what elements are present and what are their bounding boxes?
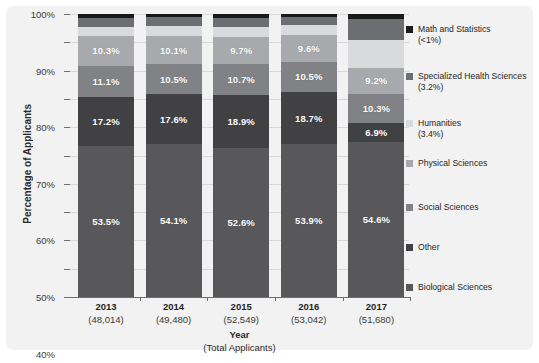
bar-segment-label: 11.1% <box>93 76 120 87</box>
bar-segment[interactable]: 10.7% <box>213 64 269 94</box>
bar-segment-label: 10.5% <box>295 71 322 82</box>
y-axis-tick-label: 50% <box>36 292 55 303</box>
bar-segment[interactable]: 53.5% <box>78 146 134 297</box>
bar-segment[interactable] <box>146 17 202 26</box>
x-tick-year: 2015 <box>205 300 277 313</box>
bar-segment[interactable]: 9.2% <box>348 68 404 94</box>
bar-segment[interactable]: 17.6% <box>146 94 202 144</box>
legend-item[interactable]: Physical Sciences <box>406 158 487 169</box>
bar-2015[interactable]: 9.7%10.7%18.9%52.6% <box>213 14 269 297</box>
bar-segment[interactable]: 18.9% <box>213 95 269 148</box>
bar-segment[interactable]: 54.6% <box>348 142 404 297</box>
x-tick-year: 2017 <box>340 300 412 313</box>
bar-segment[interactable]: 10.3% <box>348 94 404 123</box>
x-tick-total: (51,680) <box>340 313 412 326</box>
x-axis-title-main: Year <box>70 328 409 341</box>
legend-item[interactable]: Humanities(3.4%) <box>406 118 461 140</box>
bar-segment-label: 10.5% <box>160 74 187 85</box>
legend-swatch <box>406 120 413 127</box>
bar-segment[interactable]: 6.9% <box>348 123 404 143</box>
bar-segment-label: 6.9% <box>365 127 387 138</box>
x-tick-total: (48,014) <box>70 313 142 326</box>
legend-item[interactable]: Specialized Health Sciences(3.2%) <box>406 71 526 93</box>
bar-segment-label: 52.6% <box>227 217 254 228</box>
legend-label: Physical Sciences <box>418 158 487 169</box>
bar-segment[interactable] <box>348 19 404 40</box>
bar-segment[interactable] <box>78 27 134 37</box>
bar-segment[interactable] <box>348 40 404 68</box>
bar-segment[interactable] <box>213 18 269 28</box>
bar-segment-label: 10.7% <box>227 74 254 85</box>
y-axis-tick-label: 100% <box>31 9 55 20</box>
legend-swatch <box>406 73 413 80</box>
bar-segment[interactable]: 11.1% <box>78 66 134 97</box>
legend-label: Specialized Health Sciences(3.2%) <box>418 71 526 93</box>
plot-area: 0%10%20%30%40%50%60%70%80%90%100%10.3%11… <box>70 14 409 297</box>
bar-segment[interactable]: 17.2% <box>78 97 134 146</box>
legend-swatch <box>406 26 413 33</box>
x-tick-year: 2013 <box>70 300 142 313</box>
bar-segment[interactable]: 10.5% <box>281 62 337 92</box>
legend-sublabel: (3.2%) <box>418 82 526 93</box>
bar-segment[interactable]: 54.1% <box>146 144 202 297</box>
bar-2016[interactable]: 9.6%10.5%18.7%53.9% <box>281 14 337 297</box>
legend-sublabel: (<1%) <box>418 35 491 46</box>
legend-label: Humanities(3.4%) <box>418 118 461 140</box>
legend-item[interactable]: Other <box>406 242 440 253</box>
legend-item[interactable]: Social Sciences <box>406 202 479 213</box>
bar-segment-label: 9.6% <box>298 43 320 54</box>
x-tick-year: 2014 <box>138 300 210 313</box>
legend-item[interactable]: Biological Sciences <box>406 282 492 293</box>
x-tick-label-2014: 2014(49,480) <box>138 300 210 326</box>
bar-segment-label: 10.3% <box>363 103 390 114</box>
x-axis-tick-labels: 2013(48,014)2014(49,480)2015(52,549)2016… <box>70 300 409 330</box>
bar-segment[interactable] <box>281 17 337 25</box>
legend-sublabel: (3.4%) <box>418 129 461 140</box>
y-axis-tick: 30% <box>64 212 70 213</box>
legend-label: Math and Statistics(<1%) <box>418 24 491 46</box>
bar-segment[interactable]: 9.7% <box>213 37 269 64</box>
y-axis-tick: 60% <box>64 127 70 128</box>
bar-segment-label: 10.3% <box>92 45 119 56</box>
bar-segment[interactable]: 18.7% <box>281 92 337 145</box>
bar-2017[interactable]: 9.2%10.3%6.9%54.6% <box>348 14 404 297</box>
legend-item[interactable]: Math and Statistics(<1%) <box>406 24 491 46</box>
y-axis-tick-label: 40% <box>36 348 55 359</box>
bar-segment-label: 54.6% <box>363 214 390 225</box>
bar-segment[interactable] <box>146 26 202 36</box>
bar-segment[interactable] <box>78 18 134 27</box>
x-tick-label-2017: 2017(51,680) <box>340 300 412 326</box>
y-axis-tick: 50% <box>64 156 70 157</box>
y-axis-tick: 80% <box>64 71 70 72</box>
bar-segment[interactable] <box>281 25 337 35</box>
bar-segment-label: 17.2% <box>92 116 119 127</box>
bar-segment-label: 10.1% <box>160 45 187 56</box>
x-tick-year: 2016 <box>273 300 345 313</box>
bar-segment-label: 53.5% <box>92 216 119 227</box>
y-axis-tick: 10% <box>64 269 70 270</box>
bar-segment[interactable]: 10.3% <box>78 36 134 65</box>
legend-swatch <box>406 204 413 211</box>
bar-segment[interactable]: 9.6% <box>281 35 337 62</box>
y-axis-tick: 90% <box>64 42 70 43</box>
x-axis-title: Year (Total Applicants) <box>70 328 409 354</box>
x-tick-label-2015: 2015(52,549) <box>205 300 277 326</box>
y-axis-tick: 100% <box>64 14 70 15</box>
bar-segment[interactable]: 52.6% <box>213 148 269 297</box>
x-axis-title-sub: (Total Applicants) <box>70 341 409 354</box>
bar-segment-label: 54.1% <box>160 215 187 226</box>
bar-2014[interactable]: 10.1%10.5%17.6%54.1% <box>146 14 202 297</box>
y-axis-tick: 20% <box>64 240 70 241</box>
legend-label: Biological Sciences <box>418 282 492 293</box>
y-axis-tick: 40% <box>64 184 70 185</box>
y-axis-tick-label: 80% <box>36 122 55 133</box>
bar-segment[interactable]: 10.5% <box>146 64 202 94</box>
bar-segment-label: 17.6% <box>160 114 187 125</box>
bar-segment[interactable] <box>213 27 269 37</box>
bar-segment-label: 18.9% <box>227 116 254 127</box>
bar-2013[interactable]: 10.3%11.1%17.2%53.5% <box>78 14 134 297</box>
bar-segment[interactable]: 10.1% <box>146 36 202 65</box>
bar-segment-label: 9.7% <box>230 45 252 56</box>
bar-segment[interactable]: 53.9% <box>281 144 337 297</box>
legend-swatch <box>406 284 413 291</box>
